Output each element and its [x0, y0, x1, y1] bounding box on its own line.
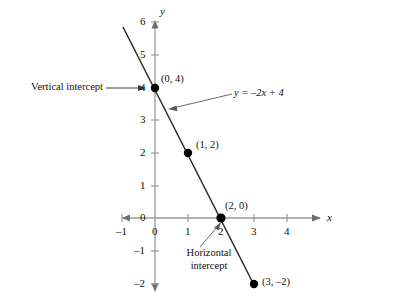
y-axis-top-arrowhead — [152, 20, 159, 29]
y-axis-label: y — [160, 6, 165, 17]
y-tick-label-minus2: –2 — [134, 278, 145, 289]
y-tick-label-0: 0 — [140, 212, 146, 223]
horizontal-intercept-annotation-line2: intercept — [171, 261, 247, 272]
data-point-0-4 — [151, 84, 159, 92]
y-tick-label-6: 6 — [140, 16, 146, 27]
x-axis-left-arrowhead — [122, 215, 130, 222]
y-axis-bottom-arrowhead — [152, 284, 159, 293]
point-label-0-4: (0, 4) — [161, 74, 184, 85]
y-tick-label-2: 2 — [140, 147, 146, 158]
point-label-3-minus2: (3, –2) — [262, 277, 290, 288]
y-tick-label-4: 4 — [140, 82, 146, 93]
x-tick-label-4: 4 — [284, 226, 290, 237]
graph-figure: y x 6 5 4 3 2 1 0 –1 –2 –1 0 1 2 3 4 (0,… — [0, 0, 402, 302]
equation-leader — [168, 94, 232, 111]
x-tick-label-1: 1 — [185, 226, 191, 237]
data-point-3-minus2 — [250, 280, 258, 288]
y-tick-label-5: 5 — [140, 49, 146, 60]
point-label-1-2: (1, 2) — [196, 140, 219, 151]
x-tick-label-2: 2 — [218, 226, 224, 237]
x-tick-label-minus1: –1 — [116, 226, 127, 237]
x-tick-label-3: 3 — [251, 226, 257, 237]
horizontal-intercept-annotation-line1: Horizontal — [171, 248, 247, 259]
x-axis-label: x — [327, 212, 332, 223]
data-point-1-2 — [184, 149, 192, 157]
point-label-2-0: (2, 0) — [225, 201, 248, 212]
x-tick-label-0: 0 — [152, 226, 158, 237]
y-tick-label-3: 3 — [140, 114, 146, 125]
x-axis-right-arrowhead — [312, 214, 321, 221]
data-point-2-0 — [216, 213, 225, 222]
y-tick-label-1: 1 — [140, 180, 146, 191]
y-tick-label-minus1: –1 — [134, 245, 145, 256]
equation-label: y = –2x + 4 — [234, 88, 284, 99]
vertical-intercept-annotation: Vertical intercept — [31, 82, 103, 93]
